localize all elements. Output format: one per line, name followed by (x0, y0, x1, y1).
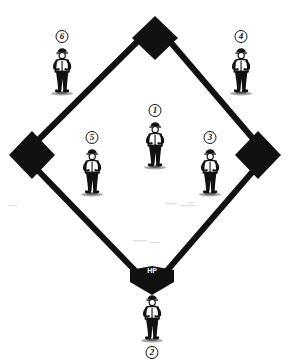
player-2-catcher[interactable]: 2 (135, 291, 169, 357)
player-4-right-field[interactable]: 4 (224, 30, 258, 96)
cap-icon (58, 48, 67, 52)
cap-icon (237, 48, 246, 52)
legs (86, 173, 98, 191)
legs (204, 173, 216, 191)
player-body (77, 145, 107, 197)
player-number-badge: 3 (204, 131, 217, 144)
legs (149, 146, 161, 164)
baseball-field-diagram: HP 6 (0, 0, 300, 364)
home-plate-label: HP (147, 267, 157, 274)
head (149, 300, 155, 306)
player-body (47, 44, 77, 96)
head (89, 154, 95, 160)
player-body (140, 118, 170, 170)
head (152, 127, 158, 133)
legs (56, 72, 68, 90)
legs (146, 319, 158, 337)
cap-icon (88, 149, 97, 153)
player-5-third-base[interactable]: 5 (75, 131, 109, 197)
player-number-badge: 1 (149, 104, 162, 117)
player-1-pitcher[interactable]: 1 (138, 104, 172, 170)
head (59, 53, 65, 59)
player-body (137, 291, 167, 343)
player-number-badge: 5 (86, 131, 99, 144)
head (207, 154, 213, 160)
player-number-badge: 2 (146, 346, 159, 359)
player-body (226, 44, 256, 96)
player-3-first-base[interactable]: 3 (193, 131, 227, 197)
player-body (195, 145, 225, 197)
third-base-marker (9, 131, 55, 179)
second-base-marker (132, 16, 178, 60)
player-number-badge: 6 (56, 30, 69, 43)
head (238, 53, 244, 59)
first-base-marker (235, 131, 281, 179)
cap-icon (206, 149, 215, 153)
cap-icon (151, 122, 160, 126)
legs (235, 72, 247, 90)
player-number-badge: 4 (235, 30, 248, 43)
cap-icon (148, 295, 157, 299)
player-6-left-field[interactable]: 6 (45, 30, 79, 96)
